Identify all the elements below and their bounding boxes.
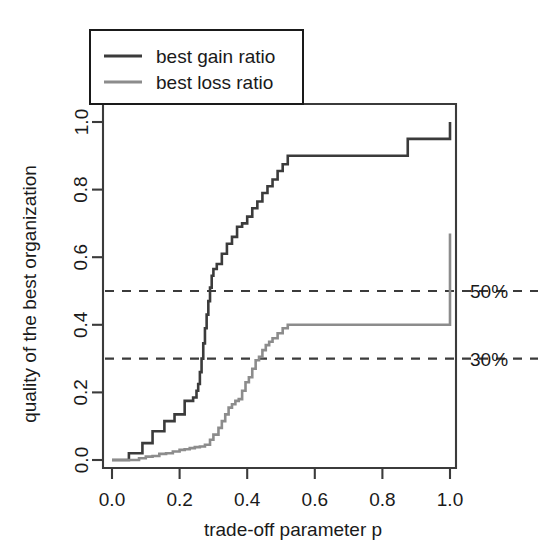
chart-canvas: 0.00.20.40.60.81.0 0.00.20.40.60.81.0 tr… bbox=[0, 0, 538, 547]
y-tick-label: 1.0 bbox=[71, 109, 92, 135]
y-tick-label: 0.0 bbox=[71, 447, 92, 473]
x-tick-label: 0.6 bbox=[302, 489, 328, 510]
annotation-50-percent: 50% bbox=[470, 281, 508, 302]
x-tick-label: 0.2 bbox=[166, 489, 192, 510]
chart-legend: best gain ratio best loss ratio bbox=[90, 30, 303, 104]
x-tick-label: 0.0 bbox=[99, 489, 125, 510]
x-axis-title: trade-off parameter p bbox=[204, 519, 382, 540]
y-tick-label: 0.4 bbox=[71, 311, 92, 338]
chart-figure: 0.00.20.40.60.81.0 0.00.20.40.60.81.0 tr… bbox=[0, 0, 538, 547]
y-tick-label: 0.6 bbox=[71, 244, 92, 270]
y-tick-label: 0.2 bbox=[71, 379, 92, 405]
x-tick-label: 1.0 bbox=[437, 489, 463, 510]
legend-label-loss: best loss ratio bbox=[156, 72, 273, 93]
y-tick-label: 0.8 bbox=[71, 176, 92, 202]
annotation-30-percent: 30% bbox=[470, 349, 508, 370]
x-tick-label: 0.8 bbox=[369, 489, 395, 510]
legend-label-gain: best gain ratio bbox=[156, 46, 275, 67]
x-tick-label: 0.4 bbox=[234, 489, 261, 510]
y-axis-title: quality of the best organization bbox=[19, 165, 40, 423]
